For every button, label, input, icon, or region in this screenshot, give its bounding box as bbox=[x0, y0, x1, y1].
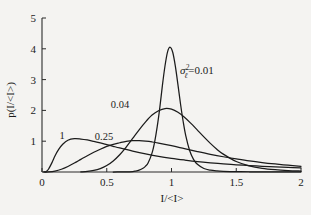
x-tick-label: 1 bbox=[169, 176, 175, 188]
sigma-equals-value: =0.01 bbox=[188, 64, 213, 76]
plot-background bbox=[0, 0, 311, 215]
chart-figure: 00.511.52 12345 I/<I> p(I/<I>) 0.04 0.25… bbox=[0, 0, 311, 215]
x-tick-label: 1.5 bbox=[229, 176, 243, 188]
curve-label-004: 0.04 bbox=[111, 99, 130, 110]
distribution-plot: 00.511.52 12345 I/<I> p(I/<I>) 0.04 0.25… bbox=[0, 0, 311, 215]
y-tick-label: 5 bbox=[31, 12, 37, 24]
x-tick-label: 0 bbox=[39, 176, 45, 188]
x-tick-label: 2 bbox=[298, 176, 304, 188]
y-tick-label: 3 bbox=[31, 74, 37, 86]
y-tick-label: 1 bbox=[31, 135, 37, 147]
y-tick-label: 2 bbox=[31, 104, 37, 116]
curve-label-1: 1 bbox=[59, 130, 64, 141]
y-tick-label: 4 bbox=[31, 43, 37, 55]
x-tick-label: 0.5 bbox=[100, 176, 114, 188]
curve-label-025: 0.25 bbox=[95, 131, 113, 142]
x-axis-label: I/<I> bbox=[161, 192, 184, 204]
y-axis-label: p(I/<I>) bbox=[4, 82, 17, 118]
